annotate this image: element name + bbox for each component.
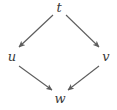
edge-t-to-v (66, 15, 99, 47)
diagram-canvas: t u v w (0, 0, 117, 110)
node-label-t: t (50, 1, 68, 14)
edge-v-to-w (68, 66, 99, 90)
node-label-w: w (51, 92, 69, 105)
node-label-v: v (97, 50, 115, 63)
node-label-u: u (3, 50, 21, 63)
edge-t-to-u (19, 15, 53, 47)
edge-u-to-w (19, 66, 52, 90)
